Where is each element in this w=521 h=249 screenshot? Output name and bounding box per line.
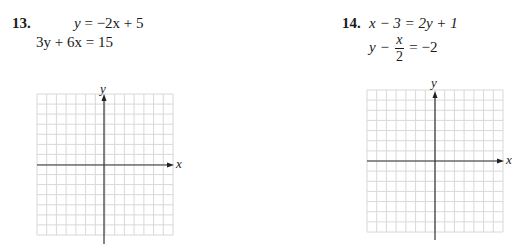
problem-13-equation-2: 3y + 6x = 15 (36, 34, 113, 51)
problem-13-graph[interactable] (0, 80, 200, 249)
problem-13-x-label: x (176, 156, 182, 172)
eq2-lhs: y − (369, 39, 390, 55)
problem-14-graph[interactable] (330, 80, 521, 249)
axes (37, 98, 170, 244)
problem-13-y-label: y (100, 81, 106, 97)
problem-14-equation-1: x − 3 = 2y + 1 (369, 15, 458, 32)
problem-14-x-label: x (506, 152, 512, 168)
problem-14-y-label: y (431, 75, 437, 91)
problem-13-number: 13. (12, 15, 31, 32)
eq2-rhs: = −2 (409, 39, 437, 55)
eq1-rhs: = −2x + 5 (84, 15, 143, 31)
eq1-lhs: y (74, 15, 81, 31)
y-axis-arrow-icon (433, 91, 438, 98)
fraction-numerator: x (395, 33, 403, 49)
fraction-denominator: 2 (395, 49, 403, 64)
problem-14-number: 14. (342, 15, 361, 32)
problem-14-equation-2: y − x 2 = −2 (369, 33, 437, 64)
problem-13-equation-1: y = −2x + 5 (74, 15, 144, 32)
fraction-x-over-2: x 2 (395, 33, 403, 64)
